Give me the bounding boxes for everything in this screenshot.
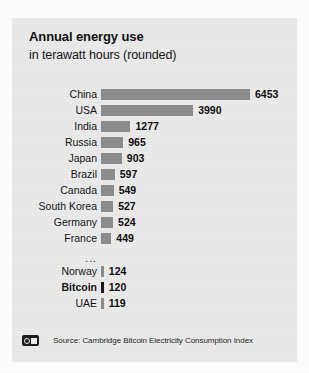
bar-row: Bitcoin120 [12,279,297,295]
bar-value-label: 119 [104,298,126,309]
bar [101,121,130,132]
bar-track: 527 [101,201,297,212]
dw-logo-square-icon [31,338,37,344]
bar-row: Brazil597 [12,166,297,182]
bar-track: 524 [101,217,297,228]
bar-row: Germany524 [12,214,297,230]
dw-logo-circle-icon [24,338,30,344]
bar-row: South Korea527 [12,198,297,214]
bar-value-label: 597 [115,169,138,180]
bar-track: 903 [101,153,297,164]
break-marker: ... [12,254,101,263]
bar-value-label: 903 [122,153,145,164]
bar [101,169,115,180]
page-subtitle: in terawatt hours (rounded) [29,48,176,62]
dw-logo-icon [22,335,39,346]
bar-value-label: 965 [123,137,146,148]
bar-row-label: Norway [12,266,101,277]
bar-value-label: 3990 [193,105,221,116]
bar-row-label: India [12,121,101,132]
break-marker-row: ... [12,246,297,263]
bar [101,153,122,164]
bar [101,233,111,244]
bar-row: Norway124 [12,263,297,279]
bar-row-label: China [12,89,101,100]
bar-row: Canada549 [12,182,297,198]
source-label: Source: Cambridge Bitcoin Electricity Co… [53,336,253,345]
bar-row: France449 [12,230,297,246]
bar [101,201,113,212]
bar-chart: China6453USA3990India1277Russia965Japan9… [12,86,297,311]
bar-track: 120 [101,282,297,293]
bar-row-label: Bitcoin [12,282,101,293]
bar-track: 6453 [101,89,297,100]
bar-row-label: France [12,233,101,244]
bar [101,185,114,196]
bar-row-label: Russia [12,137,101,148]
bar-row-label: Canada [12,185,101,196]
bar-row: USA3990 [12,102,297,118]
bar [101,137,123,148]
bar-track: 597 [101,169,297,180]
bar-row: India1277 [12,118,297,134]
bar-track: 965 [101,137,297,148]
bar-row-label: Japan [12,153,101,164]
bar-row: China6453 [12,86,297,102]
infographic-card: Annual energy use in terawatt hours (rou… [12,18,297,362]
bar-value-label: 6453 [250,89,278,100]
bar [101,89,250,100]
bar-value-label: 449 [111,233,134,244]
bar-track: 119 [101,298,297,309]
bar-row-label: Brazil [12,169,101,180]
bar-value-label: 124 [104,266,127,277]
page-title: Annual energy use [29,29,144,44]
bar-row: Russia965 [12,134,297,150]
screenshot-root: Annual energy use in terawatt hours (rou… [0,0,309,373]
bar-value-label: 549 [114,185,137,196]
bar-value-label: 1277 [130,121,158,132]
bar-row-label: South Korea [12,201,101,212]
bar-track: 549 [101,185,297,196]
bar-track: 124 [101,266,297,277]
bar-value-label: 524 [113,217,136,228]
bar-value-label: 120 [104,282,127,293]
bar-row: UAE119 [12,295,297,311]
bar [101,217,113,228]
chart-footer: Source: Cambridge Bitcoin Electricity Co… [12,335,297,346]
bar-track: 1277 [101,121,297,132]
bar-track: 3990 [101,105,297,116]
bar-value-label: 527 [113,201,136,212]
bar-row-label: Germany [12,217,101,228]
bar [101,105,193,116]
bar-row-label: UAE [12,298,101,309]
bar-row-label: USA [12,105,101,116]
bar-row: Japan903 [12,150,297,166]
bar-track: 449 [101,233,297,244]
